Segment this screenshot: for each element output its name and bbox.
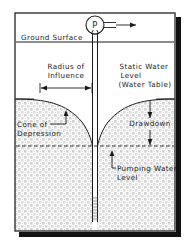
well-cross-section-svg: P Ground Surface Radius of Influence Sta… — [0, 0, 195, 245]
cone-of-depression-label-line2: Depression — [17, 129, 61, 138]
static-water-level-label-line3: (Water Table) — [119, 80, 172, 89]
drawdown-label: Drawdown — [129, 119, 170, 128]
cone-of-depression-label-line1: Cone of — [17, 120, 47, 129]
static-water-level-label-line2: Level — [121, 71, 142, 80]
pump-label: P — [92, 20, 98, 30]
static-water-level-label-line1: Static Water — [120, 62, 169, 71]
pumping-water-level-label-line1: Pumping Water — [117, 164, 177, 173]
radius-of-influence-label-line1: Radius of — [48, 62, 85, 71]
well-screen-section — [93, 196, 98, 222]
radius-of-influence-label-line2: Influence — [48, 71, 85, 80]
well-diagram-figure: P Ground Surface Radius of Influence Sta… — [0, 0, 195, 245]
ground-surface-label: Ground Surface — [21, 33, 83, 42]
pumping-water-level-label-line2: Level — [117, 173, 138, 182]
